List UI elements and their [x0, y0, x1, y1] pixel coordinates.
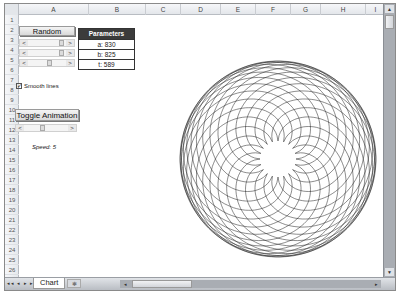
- row-header-17[interactable]: 17: [5, 175, 19, 185]
- scroll-left-arrow-icon[interactable]: <: [20, 40, 28, 46]
- row-header-16[interactable]: 16: [5, 165, 19, 175]
- row-header-5[interactable]: 5: [5, 55, 19, 65]
- row-header-6[interactable]: 6: [5, 65, 19, 75]
- vertical-scrollbar[interactable]: ▲ ▼: [383, 4, 395, 277]
- insert-sheet-icon[interactable]: ✱: [67, 279, 81, 288]
- row-header-4[interactable]: 4: [5, 45, 19, 55]
- row-header-bar: 1234567891011121314151617181920212223242…: [5, 15, 19, 277]
- scroll-down-arrow-icon[interactable]: ▼: [385, 268, 394, 276]
- column-header-d[interactable]: D: [181, 4, 221, 15]
- speed-scrollbar[interactable]: < >: [15, 124, 77, 132]
- row-header-15[interactable]: 15: [5, 155, 19, 165]
- scroll-right-arrow-icon[interactable]: >: [68, 125, 76, 131]
- row-header-9[interactable]: 9: [5, 95, 19, 105]
- row-header-22[interactable]: 22: [5, 225, 19, 235]
- speed-label: Speed: 5: [32, 144, 56, 150]
- parameter-a-cell[interactable]: a: 830: [79, 39, 134, 49]
- parameters-header: Parameters: [79, 29, 134, 39]
- spirograph-curve: [180, 61, 376, 257]
- scroll-thumb[interactable]: [47, 60, 52, 66]
- scroll-thumb[interactable]: [59, 50, 64, 56]
- scroll-left-arrow-icon[interactable]: <: [20, 60, 28, 66]
- column-header-c[interactable]: C: [146, 4, 181, 15]
- row-header-14[interactable]: 14: [5, 145, 19, 155]
- row-header-24[interactable]: 24: [5, 245, 19, 255]
- row-header-20[interactable]: 20: [5, 205, 19, 215]
- scroll-right-arrow-icon[interactable]: >: [66, 60, 74, 66]
- row-header-26[interactable]: 26: [5, 265, 19, 275]
- scroll-up-arrow-icon[interactable]: ▲: [385, 5, 394, 13]
- scroll-thumb[interactable]: [59, 40, 64, 46]
- horizontal-scrollbar[interactable]: ◂ ▸: [120, 280, 381, 288]
- vertical-scroll-thumb[interactable]: [385, 15, 394, 29]
- smooth-lines-label: Smooth lines: [24, 83, 59, 89]
- parameters-table: Parameters a: 830 b: 825 t: 589: [78, 28, 135, 70]
- parameter-b-cell[interactable]: b: 825: [79, 49, 134, 59]
- spirograph-chart[interactable]: [173, 49, 383, 269]
- row-header-18[interactable]: 18: [5, 185, 19, 195]
- row-header-3[interactable]: 3: [5, 35, 19, 45]
- checkmark-icon[interactable]: ✓: [16, 83, 22, 89]
- column-header-bar: A B C D E F G H I: [5, 4, 383, 15]
- scroll-right-arrow-icon[interactable]: >: [66, 40, 74, 46]
- excel-window: A B C D E F G H I 1234567891011121314151…: [4, 3, 396, 291]
- scroll-left-arrow-icon[interactable]: ◂: [121, 280, 129, 288]
- scroll-right-arrow-icon[interactable]: ▸: [372, 280, 380, 288]
- row-header-23[interactable]: 23: [5, 235, 19, 245]
- row-header-19[interactable]: 19: [5, 195, 19, 205]
- param-a-scrollbar[interactable]: < >: [19, 39, 75, 47]
- column-header-b[interactable]: B: [89, 4, 146, 15]
- parameter-t-cell[interactable]: t: 589: [79, 59, 134, 69]
- row-header-1[interactable]: 1: [5, 15, 19, 25]
- random-button[interactable]: Random: [19, 26, 75, 36]
- row-header-2[interactable]: 2: [5, 25, 19, 35]
- param-b-scrollbar[interactable]: < >: [19, 49, 75, 57]
- sheet-tab-bar: ◂◂ ◂ ▸ ▸▸ Chart ✱ ◂ ▸: [5, 277, 395, 290]
- column-header-f[interactable]: F: [256, 4, 291, 15]
- column-header-e[interactable]: E: [221, 4, 256, 15]
- row-header-13[interactable]: 13: [5, 135, 19, 145]
- column-header-a[interactable]: A: [19, 4, 89, 15]
- sheet-tab-chart[interactable]: Chart: [33, 278, 65, 289]
- select-all-corner[interactable]: [5, 4, 19, 15]
- toggle-animation-button[interactable]: Toggle Animation: [15, 109, 79, 121]
- column-header-g[interactable]: G: [291, 4, 321, 15]
- scroll-thumb[interactable]: [40, 125, 45, 131]
- scroll-left-arrow-icon[interactable]: <: [16, 125, 24, 131]
- column-header-h[interactable]: H: [321, 4, 366, 15]
- horizontal-scroll-thumb[interactable]: [132, 280, 192, 288]
- param-t-scrollbar[interactable]: < >: [19, 59, 75, 67]
- row-header-21[interactable]: 21: [5, 215, 19, 225]
- scroll-right-arrow-icon[interactable]: >: [66, 50, 74, 56]
- smooth-lines-checkbox[interactable]: ✓ Smooth lines: [16, 83, 59, 89]
- row-header-25[interactable]: 25: [5, 255, 19, 265]
- scroll-left-arrow-icon[interactable]: <: [20, 50, 28, 56]
